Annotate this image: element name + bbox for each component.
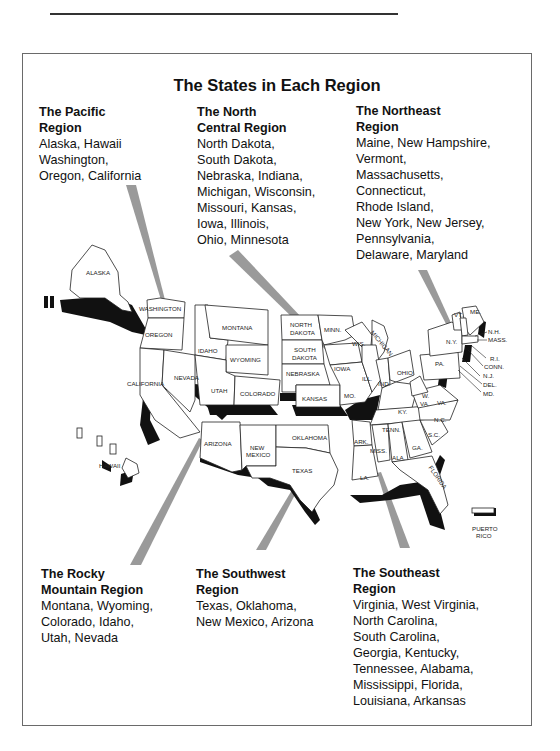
region-rocky-mountain-states-1: Montana, Wyoming,	[41, 598, 153, 614]
label-puerto-rico-2: RICO	[476, 532, 492, 539]
label-georgia: GA.	[412, 444, 423, 451]
region-rocky-mountain-heading-1: The Rocky	[41, 566, 153, 582]
region-southwest-states-2: New Mexico, Arizona	[196, 614, 314, 630]
label-oregon: OREGON	[145, 331, 173, 338]
label-nevada: NEVADA	[174, 374, 200, 381]
region-north-central-states-6: Iowa, Illinois,	[197, 216, 315, 232]
label-new-mexico-2: MEXICO	[246, 451, 271, 458]
label-arizona: ARIZONA	[204, 440, 232, 447]
state-massachusetts	[462, 336, 478, 344]
label-connecticut: CONN.	[484, 363, 504, 370]
label-colorado: COLORADO	[240, 390, 276, 397]
region-northeast-states-2: Vermont,	[356, 151, 490, 167]
label-south-dakota-1: SOUTH	[294, 346, 316, 353]
region-southeast-states-4: Georgia, Kentucky,	[353, 645, 479, 661]
region-southeast-states-2: North Carolina,	[353, 613, 479, 629]
label-alaska: ALASKA	[86, 269, 111, 276]
label-maine: ME.	[470, 308, 481, 315]
region-rocky-mountain-states-3: Utah, Nevada	[41, 630, 153, 646]
label-washington: WASHINGTON	[139, 305, 181, 312]
region-northeast-states-3: Massachusetts,	[356, 167, 490, 183]
label-new-hampshire: N.H.	[488, 328, 501, 335]
label-oklahoma: OKLAHOMA	[292, 434, 328, 441]
label-montana: MONTANA	[222, 324, 253, 331]
region-northeast-states-7: Pennsylvania,	[356, 231, 490, 247]
label-kansas: KANSAS	[302, 395, 327, 402]
region-northeast: The Northeast Region Maine, New Hampshir…	[356, 103, 490, 263]
label-north-carolina: N.C.	[434, 416, 447, 423]
label-idaho: IDAHO	[198, 347, 218, 354]
label-new-jersey: N.J.	[483, 372, 494, 379]
label-south-dakota-2: DAKOTA	[292, 354, 318, 361]
region-north-central-heading-2: Central Region	[197, 120, 315, 136]
rocky-mountain-pointer-beam	[130, 438, 203, 565]
region-pacific: The Pacific Region Alaska, Hawaii Washin…	[39, 104, 141, 184]
label-iowa: IOWA	[334, 365, 351, 372]
label-ohio: OHIO	[397, 369, 413, 376]
region-rocky-mountain-states-2: Colorado, Idaho,	[41, 614, 153, 630]
region-rocky-mountain: The Rocky Mountain Region Montana, Wyomi…	[41, 566, 153, 646]
label-vermont: VT.	[454, 311, 463, 318]
label-minnesota: MINN.	[324, 326, 342, 333]
label-tennessee: TENN.	[382, 426, 401, 433]
region-southeast-states-7: Louisiana, Arkansas	[353, 693, 479, 709]
label-missouri: MO.	[344, 392, 356, 399]
label-wyoming: WYOMING	[230, 356, 261, 363]
label-texas: TEXAS	[292, 467, 312, 474]
label-alabama: ALA.	[392, 454, 406, 461]
region-north-central-states-7: Ohio, Minnesota	[197, 232, 315, 248]
label-west-virginia-2: VA.	[420, 400, 430, 407]
label-nebraska: NEBRASKA	[286, 370, 321, 377]
label-new-york: N.Y.	[446, 338, 458, 345]
region-southeast: The Southeast Region Virginia, West Virg…	[353, 565, 479, 709]
region-southeast-states-6: Mississippi, Florida,	[353, 677, 479, 693]
region-northeast-states-5: Rhode Island,	[356, 199, 490, 215]
label-new-mexico-1: NEW	[250, 444, 265, 451]
label-maryland: MD.	[483, 390, 495, 397]
region-pacific-heading-1: The Pacific	[39, 104, 141, 120]
territory-puerto-rico	[472, 508, 494, 513]
label-california: CALIFORNIA	[127, 380, 165, 387]
region-northeast-states-6: New York, New Jersey,	[356, 215, 490, 231]
region-north-central-states-2: South Dakota,	[197, 152, 315, 168]
region-pacific-states-2: Washington,	[39, 152, 141, 168]
region-north-central-states-1: North Dakota,	[197, 136, 315, 152]
region-north-central-states-5: Missouri, Kansas,	[197, 200, 315, 216]
label-massachusetts: MASS.	[488, 336, 508, 343]
region-north-central-states-3: Nebraska, Indiana,	[197, 168, 315, 184]
label-pennsylvania: PA.	[435, 360, 445, 367]
label-mississippi: MISS.	[370, 447, 387, 454]
region-southwest-states-1: Texas, Oklahoma,	[196, 598, 314, 614]
region-southwest: The Southwest Region Texas, Oklahoma, Ne…	[196, 566, 314, 630]
region-north-central: The North Central Region North Dakota, S…	[197, 104, 315, 248]
region-southeast-states-1: Virginia, West Virginia,	[353, 597, 479, 613]
label-illinois: ILL.	[362, 375, 373, 382]
label-virginia: VA.	[437, 399, 447, 406]
label-south-carolina: S.C.	[428, 431, 440, 438]
region-rocky-mountain-heading-2: Mountain Region	[41, 582, 153, 598]
label-rhode-island: R.I.	[490, 355, 500, 362]
region-southeast-states-3: South Carolina,	[353, 629, 479, 645]
southwest-pointer-beam	[256, 485, 299, 550]
label-indiana: IND.	[378, 380, 391, 387]
state-hawaii-island	[77, 428, 82, 438]
pacific-pointer-beam	[126, 185, 165, 300]
region-northeast-heading-2: Region	[356, 119, 490, 135]
label-delaware: DEL.	[483, 381, 497, 388]
region-southwest-heading-1: The Southwest	[196, 566, 314, 582]
region-northeast-states-4: Connecticut,	[356, 183, 490, 199]
label-wisconsin: WIS.	[352, 340, 366, 347]
region-northeast-states-1: Maine, New Hampshire,	[356, 135, 490, 151]
region-pacific-states-3: Oregon, California	[39, 168, 141, 184]
region-southeast-states-5: Tennessee, Alabama,	[353, 661, 479, 677]
region-southeast-heading-1: The Southeast	[353, 565, 479, 581]
label-hawaii: HAWAII	[99, 462, 121, 469]
region-northeast-states-8: Delaware, Maryland	[356, 247, 490, 263]
label-louisiana: LA.	[360, 474, 370, 481]
state-arizona	[200, 422, 242, 472]
region-pacific-heading-2: Region	[39, 120, 141, 136]
label-north-dakota-1: NORTH	[290, 321, 312, 328]
label-kentucky: KY.	[398, 408, 407, 415]
label-utah: UTAH	[211, 387, 227, 394]
state-ohio	[388, 350, 414, 382]
